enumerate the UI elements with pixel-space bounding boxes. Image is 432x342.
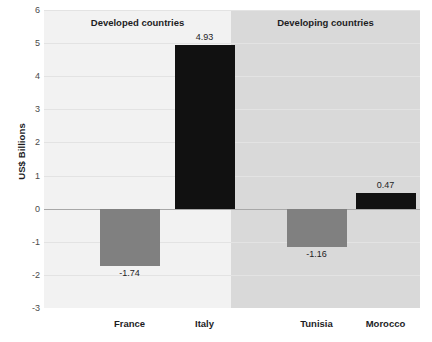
y-tick-label: -1 <box>4 237 40 247</box>
x-axis-ticks: FranceItalyTunisiaMorocco <box>44 308 420 342</box>
x-tick-label-morocco: Morocco <box>366 318 406 329</box>
bar-value-label-france: -1.74 <box>90 268 170 278</box>
y-axis-ticks: 6543210-1-2-3 <box>0 10 40 308</box>
y-tick-label: 4 <box>4 71 40 81</box>
gridline <box>44 43 420 44</box>
bar-value-label-morocco: 0.47 <box>346 180 421 190</box>
panel-background-developing <box>231 10 420 308</box>
y-tick-label: -2 <box>4 270 40 280</box>
bar-value-label-tunisia: -1.16 <box>277 249 357 259</box>
y-tick-label: 3 <box>4 104 40 114</box>
bar-value-label-italy: 4.93 <box>165 32 245 42</box>
panel-header-developing: Developing countries <box>231 17 420 28</box>
bar-italy[interactable] <box>175 45 235 208</box>
y-tick-label: -3 <box>4 303 40 313</box>
y-tick-label: 1 <box>4 171 40 181</box>
x-tick-label-tunisia: Tunisia <box>300 318 333 329</box>
x-tick-label-italy: Italy <box>195 318 214 329</box>
y-tick-label: 5 <box>4 38 40 48</box>
panel-header-developed: Developed countries <box>44 17 231 28</box>
plot-area: Developed countries Developing countries… <box>44 10 420 308</box>
bar-chart: US$ Billions 6543210-1-2-3 Developed cou… <box>0 0 432 342</box>
y-tick-label: 2 <box>4 137 40 147</box>
x-tick-label-france: France <box>114 318 145 329</box>
bar-france[interactable] <box>100 209 160 267</box>
bar-morocco[interactable] <box>356 193 416 209</box>
y-tick-label: 6 <box>4 5 40 15</box>
gridline <box>44 10 420 11</box>
y-tick-label: 0 <box>4 204 40 214</box>
bar-tunisia[interactable] <box>287 209 347 247</box>
